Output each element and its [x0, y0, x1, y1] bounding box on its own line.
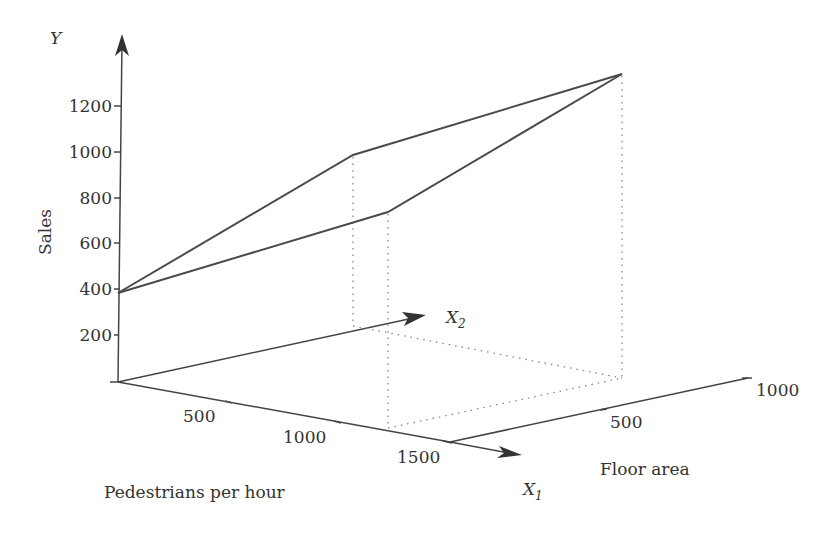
projection-lines [353, 76, 622, 428]
floor-area-axis [450, 378, 748, 442]
floor-area-title: Floor area [600, 459, 690, 479]
x1-tick-500: 500 [183, 406, 215, 426]
y-axis [118, 40, 122, 382]
y-tick-400: 400 [80, 279, 112, 299]
floor-area-tick-1000: 1000 [756, 380, 799, 400]
sales-plane-diagram: 1200 1000 800 600 400 200 Y Sales X2 500… [0, 0, 835, 533]
regression-plane [118, 74, 622, 293]
y-tick-1200: 1200 [69, 96, 112, 116]
plane-edge-lower [118, 74, 622, 293]
y-tick-800: 800 [80, 188, 112, 208]
y-axis-symbol: Y [50, 28, 63, 48]
x2-symbol: X2 [444, 307, 466, 331]
floor-area-tick-500-mark [600, 409, 607, 410]
x2-axis-arrow [118, 317, 418, 382]
x1-tick-1500: 1500 [397, 447, 440, 467]
y-tick-600: 600 [80, 233, 112, 253]
x1-tick-1000: 1000 [283, 427, 326, 447]
floor-area-tick-500: 500 [610, 412, 642, 432]
x1-axis-title: Pedestrians per hour [104, 482, 286, 502]
y-tick-200: 200 [80, 325, 112, 345]
plane-edge-upper [118, 74, 622, 293]
x1-symbol: X1 [521, 479, 543, 503]
y-axis-title: Sales [35, 209, 55, 255]
y-tick-1000: 1000 [69, 142, 112, 162]
